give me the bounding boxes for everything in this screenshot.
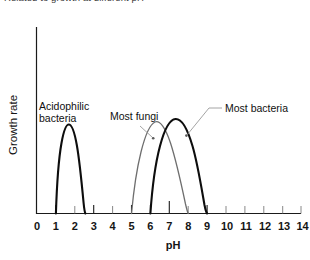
x-tick-label-9: 9 [204,220,210,232]
x-tick-label-6: 6 [147,220,153,232]
leader-line-most-bacteria [187,108,222,135]
x-tick-label-0: 0 [34,220,40,232]
label-most-bacteria: Most bacteria [225,102,288,114]
x-tick-label-7: 7 [166,220,172,232]
x-axis-ticks [56,201,301,214]
leader-dot-most-fungi [152,137,155,140]
curve-acidophilic-bacteria [56,125,86,214]
x-tick-label-1: 1 [53,220,59,232]
x-tick-label-5: 5 [128,220,134,232]
x-tick-label-3: 3 [91,220,97,232]
x-axis-tick-labels: 0 1 2 3 4 5 6 7 8 9 10 11 12 13 14 [34,220,310,232]
curve-most-fungi [132,122,189,214]
x-tick-label-10: 10 [221,220,233,232]
label-acidophilic-line2: bacteria [39,112,77,124]
annotation-most-bacteria: Most bacteria [185,102,288,137]
y-axis-title: Growth rate [7,95,19,155]
x-tick-label-11: 11 [240,220,252,232]
x-tick-label-12: 12 [259,220,271,232]
x-tick-label-2: 2 [72,220,78,232]
x-tick-label-4: 4 [110,220,117,232]
label-most-fungi: Most fungi [110,110,158,122]
growth-rate-vs-ph-chart: 0 1 2 3 4 5 6 7 8 9 10 11 12 13 14 pH Gr… [0,0,310,260]
label-acidophilic-line1: Acidophilic [39,100,89,112]
x-tick-label-14: 14 [296,220,309,232]
x-tick-label-8: 8 [185,220,191,232]
ph-growth-rate-figure: Related to growth at different pH 0 [0,0,310,260]
curve-most-bacteria [150,119,207,214]
x-tick-label-13: 13 [278,220,290,232]
x-axis-title: pH [166,239,181,251]
leader-dot-most-bacteria [185,134,188,137]
annotation-acidophilic-bacteria: Acidophilic bacteria [39,100,89,124]
